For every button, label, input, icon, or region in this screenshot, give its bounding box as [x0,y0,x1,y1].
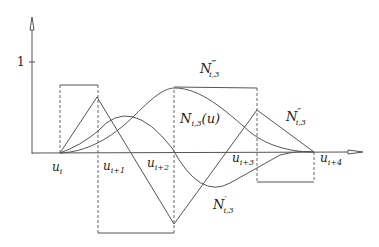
first-derivative-label: N′i,3 [212,195,234,215]
svg-text:ui: ui [52,160,63,176]
svg-text:ui+1: ui+1 [103,159,125,175]
knot-labels: ui ui+1 ui+2 ui+3 ui+4 [52,151,342,176]
basis-label: Ni,3(u) [179,111,220,128]
svg-text:ui+4: ui+4 [320,151,342,167]
y-axis-arrow-icon [30,17,34,30]
second-derivative-label: N″i,3 [285,107,306,127]
knot-lines [60,85,314,233]
svg-text:ui+3: ui+3 [232,151,254,167]
y-tick-label: 1 [17,55,25,69]
x-axis-arrow-icon [348,150,363,154]
third-derivative-label: N‴i,3 [199,59,219,79]
bspline-diagram: 1 ui ui+1 ui+2 ui+3 ui+4 N‴i,3 Ni,3(u) N… [0,0,379,247]
svg-text:ui+2: ui+2 [147,156,169,172]
